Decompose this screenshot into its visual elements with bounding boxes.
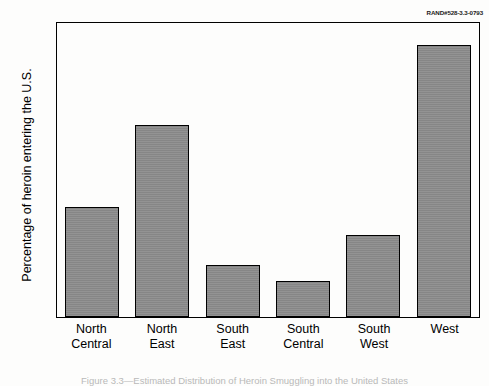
bar-north-central: [65, 207, 119, 317]
rand-source-id: RAND#528-3.3-0793: [427, 9, 483, 16]
x-label-west: West: [409, 322, 480, 352]
bar-slot: [338, 23, 408, 317]
bar-slot: [268, 23, 338, 317]
x-label-line: West: [339, 337, 410, 352]
x-label-line: North: [127, 322, 198, 337]
bar-south-east: [206, 265, 260, 317]
x-label-south-central: SouthCentral: [268, 322, 339, 352]
y-axis-title: Percentage of heroin entering the U.S.: [20, 25, 34, 325]
plot-area: [56, 22, 480, 318]
bar-slot: [57, 23, 127, 317]
bar-slot: [409, 23, 479, 317]
x-label-line: Central: [268, 337, 339, 352]
x-label-line: South: [268, 322, 339, 337]
x-label-line: South: [339, 322, 410, 337]
x-label-line: South: [197, 322, 268, 337]
x-label-line: West: [409, 322, 480, 337]
bar-south-central: [276, 281, 330, 317]
x-label-line: Central: [56, 337, 127, 352]
bar-south-west: [346, 235, 400, 317]
bar-slot: [198, 23, 268, 317]
x-label-line: East: [197, 337, 268, 352]
x-label-line: East: [127, 337, 198, 352]
bar-west: [417, 45, 471, 317]
x-label-north-east: NorthEast: [127, 322, 198, 352]
x-label-north-central: NorthCentral: [56, 322, 127, 352]
x-label-south-west: SouthWest: [339, 322, 410, 352]
x-axis-labels: NorthCentralNorthEastSouthEastSouthCentr…: [56, 322, 480, 352]
figure-caption: Figure 3.3—Estimated Distribution of Her…: [0, 375, 489, 386]
bar-slot: [127, 23, 197, 317]
bar-series: [57, 23, 479, 317]
x-label-south-east: SouthEast: [197, 322, 268, 352]
x-label-line: North: [56, 322, 127, 337]
bar-north-east: [135, 125, 189, 317]
